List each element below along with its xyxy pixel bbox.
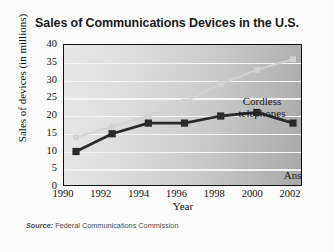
data-point-answering-machines-1990: [72, 148, 79, 155]
x-tick-label-2002: 2002: [267, 188, 313, 199]
annotation-answering-line1: Answering: [260, 169, 302, 181]
y-tick-label-40: 40: [17, 39, 57, 50]
annotation-cordless-line1: Cordless: [214, 95, 302, 107]
y-tick-label-10: 10: [17, 146, 57, 157]
source-body: Federal Communications Commission: [53, 221, 178, 230]
y-tick-label-20: 20: [17, 110, 57, 121]
chart-title: Sales of Communications Devices in the U…: [0, 16, 334, 30]
data-point-cordless-telephones-2000: [254, 67, 260, 73]
data-point-answering-machines-2002: [289, 120, 296, 127]
y-tick-label-30: 30: [17, 75, 57, 86]
plot-area: Cordless telephones Answering machines: [63, 44, 302, 186]
data-point-cordless-telephones-1990: [73, 134, 79, 140]
data-point-answering-machines-1996: [181, 120, 188, 127]
data-point-cordless-telephones-2002: [290, 56, 296, 62]
y-tick-label-25: 25: [17, 92, 57, 103]
annotation-cordless-line2: telephones: [214, 107, 302, 119]
x-axis-label: Year: [63, 200, 303, 212]
data-point-answering-machines-1994: [145, 120, 152, 127]
data-point-answering-machines-1992: [109, 130, 116, 137]
chart-figure: Sales of Communications Devices in the U…: [0, 0, 334, 252]
annotation-answering-line2: machines: [260, 181, 302, 186]
source-note: Source: Federal Communications Commissio…: [26, 221, 178, 230]
annotation-cordless-telephones: Cordless telephones: [214, 95, 302, 120]
y-tick-label-5: 5: [17, 163, 57, 174]
y-tick-label-35: 35: [17, 57, 57, 68]
data-point-cordless-telephones-1992: [109, 124, 115, 130]
data-point-cordless-telephones-1998: [218, 81, 224, 87]
source-prefix: Source:: [26, 221, 53, 230]
data-point-cordless-telephones-1996: [182, 99, 188, 105]
annotation-answering-machines: Answering machines: [260, 169, 302, 186]
data-point-cordless-telephones-1994: [145, 113, 151, 119]
y-tick-label-15: 15: [17, 128, 57, 139]
